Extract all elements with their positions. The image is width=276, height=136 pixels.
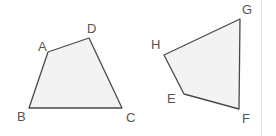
- figure-canvas: A D C B H G F E: [0, 0, 276, 136]
- vertex-label-d: D: [87, 22, 96, 35]
- vertex-label-h: H: [151, 38, 160, 51]
- vertex-label-e: E: [167, 92, 176, 105]
- geometry-diagram: [0, 0, 276, 136]
- vertex-label-g: G: [242, 3, 252, 16]
- vertex-label-a: A: [38, 40, 47, 53]
- vertex-label-b: B: [17, 110, 26, 123]
- vertex-label-c: C: [126, 111, 135, 124]
- vertex-label-f: F: [242, 112, 250, 125]
- panel-divider: [261, 0, 262, 136]
